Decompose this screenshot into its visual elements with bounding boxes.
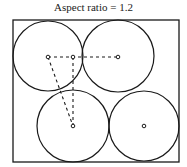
container-rectangle (13, 20, 179, 162)
point-top-left-center (46, 55, 50, 59)
circle-packing-diagram (0, 0, 187, 167)
point-top-right-center (116, 55, 120, 59)
point-bottom-left-center (71, 124, 75, 128)
point-top-mid (71, 55, 75, 59)
dashed-line-diagonal (48, 57, 73, 126)
circles (13, 20, 179, 162)
point-bottom-right-center (142, 124, 146, 128)
